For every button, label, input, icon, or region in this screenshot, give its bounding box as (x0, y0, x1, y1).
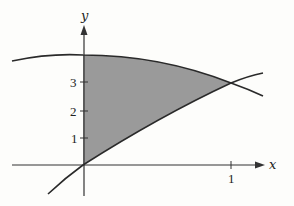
shaded-region (83, 55, 231, 165)
y-tick-label-1: 1 (71, 131, 78, 146)
x-axis-arrow-icon (255, 162, 265, 169)
math-figure: y x 3 2 1 1 (0, 0, 294, 206)
y-tick-label-3: 3 (70, 75, 77, 90)
y-tick-label-2: 2 (70, 104, 77, 119)
y-axis-arrow-icon (81, 25, 88, 35)
x-tick-label-1: 1 (228, 171, 235, 186)
x-axis-label: x (269, 157, 277, 172)
y-axis-label: y (80, 8, 89, 23)
figure-canvas: y x 3 2 1 1 (0, 0, 294, 206)
